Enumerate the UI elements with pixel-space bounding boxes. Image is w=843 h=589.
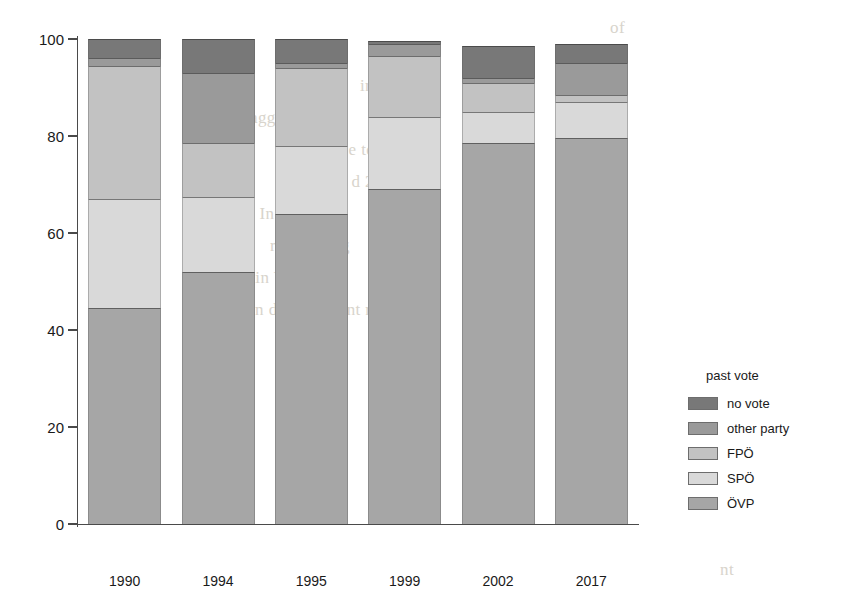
y-axis-tick-label: 40 bbox=[6, 322, 64, 339]
legend-item[interactable]: FPÖ bbox=[688, 442, 838, 464]
bar-segment[interactable] bbox=[275, 39, 348, 63]
bar-segment[interactable] bbox=[88, 66, 161, 199]
legend-swatch bbox=[688, 422, 718, 435]
x-axis-tick-label: 1999 bbox=[368, 573, 441, 589]
bar-group[interactable]: 1990 bbox=[88, 39, 161, 524]
legend-items: no voteother partyFPÖSPÖÖVP bbox=[688, 392, 838, 514]
bar-segment[interactable] bbox=[88, 39, 161, 58]
bar-segment[interactable] bbox=[555, 63, 628, 95]
y-axis-labels: 100806040200 bbox=[0, 0, 64, 576]
bar-segment[interactable] bbox=[462, 112, 535, 144]
stacked-bar[interactable] bbox=[88, 39, 161, 524]
legend-item-label: no vote bbox=[727, 396, 770, 411]
bar-segment[interactable] bbox=[182, 197, 255, 272]
bar-group[interactable]: 1994 bbox=[182, 39, 255, 524]
x-axis-tick-label: 1990 bbox=[88, 573, 161, 589]
bar-segment[interactable] bbox=[88, 58, 161, 65]
stacked-bar[interactable] bbox=[462, 46, 535, 524]
y-axis-tick bbox=[68, 135, 77, 136]
legend-item[interactable]: no vote bbox=[688, 392, 838, 414]
legend-swatch bbox=[688, 397, 718, 410]
bar-segment[interactable] bbox=[275, 68, 348, 146]
y-axis-tick-label: 20 bbox=[6, 419, 64, 436]
y-axis-tick bbox=[68, 426, 77, 427]
bar-segment[interactable] bbox=[555, 102, 628, 138]
bar-segment[interactable] bbox=[182, 39, 255, 73]
bar-segment[interactable] bbox=[88, 199, 161, 308]
y-axis-tick-label: 80 bbox=[6, 128, 64, 145]
bar-group[interactable]: 1999 bbox=[368, 39, 441, 524]
stacked-bar[interactable] bbox=[275, 39, 348, 524]
legend-item-label: FPÖ bbox=[727, 446, 754, 461]
legend-title: past vote bbox=[706, 368, 838, 383]
legend-swatch bbox=[688, 447, 718, 460]
bar-segment[interactable] bbox=[462, 46, 535, 78]
y-axis-tick bbox=[68, 523, 77, 524]
bar-segment[interactable] bbox=[182, 73, 255, 143]
bar-segment[interactable] bbox=[182, 272, 255, 524]
x-axis-tick-label: 1995 bbox=[275, 573, 348, 589]
legend-item[interactable]: SPÖ bbox=[688, 467, 838, 489]
stacked-bar[interactable] bbox=[555, 44, 628, 524]
legend-item[interactable]: ÖVP bbox=[688, 492, 838, 514]
bar-segment[interactable] bbox=[275, 214, 348, 524]
y-axis-line bbox=[77, 36, 78, 527]
bar-segment[interactable] bbox=[368, 117, 441, 190]
legend-item-label: ÖVP bbox=[727, 496, 754, 511]
legend-swatch bbox=[688, 472, 718, 485]
bar-segment[interactable] bbox=[462, 143, 535, 524]
y-axis-tick-label: 0 bbox=[6, 516, 64, 533]
bar-segment[interactable] bbox=[555, 44, 628, 63]
y-axis-tick bbox=[68, 329, 77, 330]
plot-area: 199019941995199920022017 bbox=[78, 39, 638, 524]
bar-group[interactable]: 2017 bbox=[555, 39, 628, 524]
bar-segment[interactable] bbox=[555, 95, 628, 102]
x-axis-tick-label: 1994 bbox=[182, 573, 255, 589]
bar-segment[interactable] bbox=[368, 44, 441, 56]
legend-item-label: other party bbox=[727, 421, 789, 436]
bar-segment[interactable] bbox=[462, 83, 535, 112]
y-axis-tick-label: 100 bbox=[6, 31, 64, 48]
stacked-bar[interactable] bbox=[182, 39, 255, 524]
bar-segment[interactable] bbox=[88, 308, 161, 524]
bar-segment[interactable] bbox=[368, 189, 441, 524]
x-axis-line bbox=[77, 524, 639, 525]
bar-segment[interactable] bbox=[182, 143, 255, 196]
legend-swatch bbox=[688, 497, 718, 510]
x-axis-tick-label: 2002 bbox=[462, 573, 535, 589]
bar-segment[interactable] bbox=[275, 146, 348, 214]
y-axis-tick bbox=[68, 232, 77, 233]
bar-group[interactable]: 2002 bbox=[462, 39, 535, 524]
chart-legend: past vote no voteother partyFPÖSPÖÖVP bbox=[688, 368, 838, 517]
stacked-bar[interactable] bbox=[368, 41, 441, 524]
bar-segment[interactable] bbox=[555, 138, 628, 524]
bar-group[interactable]: 1995 bbox=[275, 39, 348, 524]
legend-item-label: SPÖ bbox=[727, 471, 754, 486]
x-axis-tick-label: 2017 bbox=[555, 573, 628, 589]
bar-segment[interactable] bbox=[368, 56, 441, 117]
y-axis-tick bbox=[68, 38, 77, 39]
legend-item[interactable]: other party bbox=[688, 417, 838, 439]
y-axis-tick-label: 60 bbox=[6, 225, 64, 242]
